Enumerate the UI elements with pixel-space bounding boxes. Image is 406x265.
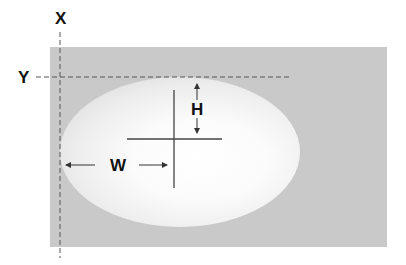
x-axis-label: X <box>55 10 66 27</box>
height-label: H <box>191 101 203 118</box>
y-axis-label: Y <box>18 69 29 86</box>
width-label: W <box>110 157 126 174</box>
diagram-lines <box>0 0 406 265</box>
diagram-canvas: X Y H W <box>0 0 406 265</box>
